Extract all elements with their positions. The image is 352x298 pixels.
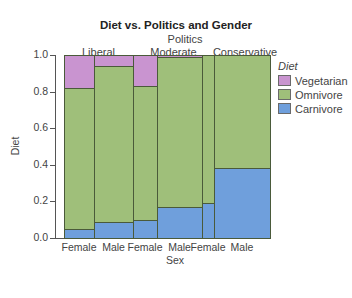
mosaic-cell-omnivore bbox=[133, 86, 158, 221]
mosaic-cell-carnivore bbox=[214, 168, 271, 239]
y-tick-mark bbox=[50, 92, 56, 93]
top-axis-label: Politics bbox=[150, 33, 220, 45]
mosaic-cell-vegetarian bbox=[157, 55, 203, 58]
y-tick-label: 1.0 bbox=[22, 48, 48, 60]
mosaic-cell-vegetarian bbox=[64, 55, 95, 89]
mosaic-cell-carnivore bbox=[133, 220, 158, 239]
legend-swatch-omnivore bbox=[278, 89, 291, 100]
y-tick-mark bbox=[50, 201, 56, 202]
y-axis-label: Diet bbox=[9, 137, 21, 156]
legend-item-carnivore: Carnivore bbox=[278, 102, 348, 115]
y-tick-label: 0.2 bbox=[22, 194, 48, 206]
x-tick-label: Male bbox=[217, 241, 267, 253]
mosaic-cell-vegetarian bbox=[94, 55, 134, 67]
legend-item-omnivore: Omnivore bbox=[278, 88, 348, 101]
mosaic-cell-omnivore bbox=[94, 66, 134, 223]
legend-label: Vegetarian bbox=[295, 75, 348, 87]
y-tick-label: 0.8 bbox=[22, 85, 48, 97]
legend-swatch-vegetarian bbox=[278, 75, 291, 86]
mosaic-cell-vegetarian bbox=[133, 55, 158, 87]
mosaic-cell-omnivore bbox=[157, 57, 203, 208]
y-tick-mark bbox=[50, 238, 56, 239]
mosaic-cell-carnivore bbox=[64, 229, 95, 239]
y-tick-label: 0.6 bbox=[22, 121, 48, 133]
y-tick-mark bbox=[50, 128, 56, 129]
legend-label: Carnivore bbox=[295, 103, 343, 115]
mosaic-plot-area bbox=[64, 55, 270, 238]
mosaic-cell-omnivore bbox=[214, 55, 271, 169]
y-axis-line bbox=[55, 55, 56, 238]
chart-title: Diet vs. Politics and Gender bbox=[0, 19, 352, 31]
y-tick-mark bbox=[50, 55, 56, 56]
legend-swatch-carnivore bbox=[278, 103, 291, 114]
y-tick-label: 0.4 bbox=[22, 158, 48, 170]
legend: Vegetarian Omnivore Carnivore bbox=[278, 74, 348, 115]
y-tick-label: 0.0 bbox=[22, 231, 48, 243]
mosaic-cell-carnivore bbox=[157, 207, 203, 239]
legend-item-vegetarian: Vegetarian bbox=[278, 74, 348, 87]
legend-label: Omnivore bbox=[295, 89, 343, 101]
mosaic-cell-carnivore bbox=[94, 222, 134, 239]
x-axis-label: Sex bbox=[150, 254, 200, 266]
y-tick-mark bbox=[50, 165, 56, 166]
legend-title: Diet bbox=[278, 60, 298, 72]
mosaic-cell-omnivore bbox=[64, 88, 95, 230]
